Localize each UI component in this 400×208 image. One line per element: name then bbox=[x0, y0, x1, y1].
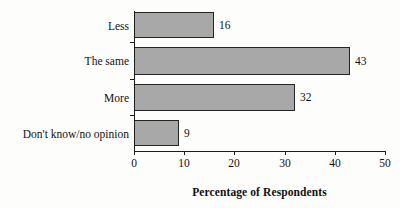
bar-value-the-same: 43 bbox=[355, 55, 367, 67]
bar-the-same bbox=[134, 47, 350, 75]
bar-value-more: 32 bbox=[300, 91, 312, 103]
category-label-more: More bbox=[104, 92, 134, 104]
x-axis-tick-label-30: 30 bbox=[270, 157, 300, 170]
category-label-dont-know: Don't know/no opinion bbox=[23, 128, 134, 140]
x-axis-line bbox=[134, 151, 385, 152]
bar-chart: Less The same More Don't know/no opinion… bbox=[0, 0, 400, 208]
x-axis-tick-label-20: 20 bbox=[219, 157, 249, 170]
bar-value-dont-know: 9 bbox=[184, 127, 190, 139]
x-axis-tick-50 bbox=[385, 151, 386, 155]
category-label-less: Less bbox=[108, 20, 134, 32]
x-axis-tick-20 bbox=[234, 151, 235, 155]
x-axis-tick-0 bbox=[134, 151, 135, 155]
category-label-the-same: The same bbox=[85, 55, 134, 67]
x-axis-tick-label-50: 50 bbox=[370, 157, 400, 170]
bar-value-less: 16 bbox=[219, 19, 231, 31]
bar-less bbox=[134, 12, 214, 38]
scan-artifact bbox=[0, 0, 400, 7]
bar-dont-know bbox=[134, 120, 179, 146]
x-axis-tick-label-10: 10 bbox=[169, 157, 199, 170]
y-axis-line bbox=[134, 11, 135, 152]
x-axis-tick-10 bbox=[184, 151, 185, 155]
x-axis-tick-label-40: 40 bbox=[320, 157, 350, 170]
x-axis-title: Percentage of Respondents bbox=[134, 186, 385, 198]
y-axis-tick-3 bbox=[130, 115, 135, 116]
x-axis-tick-40 bbox=[335, 151, 336, 155]
x-axis-tick-30 bbox=[285, 151, 286, 155]
y-axis-tick-1 bbox=[130, 42, 135, 43]
y-axis-tick-2 bbox=[130, 79, 135, 80]
bar-more bbox=[134, 84, 295, 111]
x-axis-tick-label-0: 0 bbox=[119, 157, 149, 170]
